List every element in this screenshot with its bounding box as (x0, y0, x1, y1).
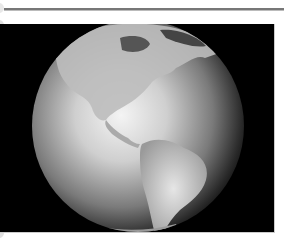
rule-endcap (0, 3, 4, 13)
globe-image-panel (0, 24, 275, 233)
globe-image (0, 24, 274, 232)
horizontal-rule (4, 8, 284, 10)
